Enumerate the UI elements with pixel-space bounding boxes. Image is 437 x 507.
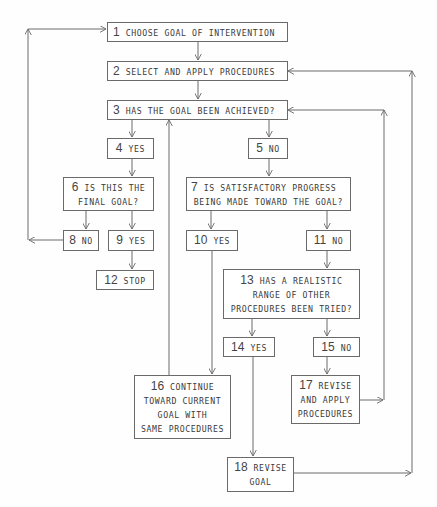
node-16-continue: 16CONTINUE TOWARD CURRENT GOAL WITH SAME…: [134, 375, 231, 439]
node-label: NO: [332, 236, 343, 246]
node-number: 8: [69, 233, 76, 247]
node-label: YES: [129, 144, 146, 154]
node-number: 5: [256, 141, 263, 155]
node-3-goal-achieved: 3HAS THE GOAL BEEN ACHIEVED?: [107, 100, 288, 120]
node-number: 6: [72, 180, 79, 194]
node-number: 16: [151, 379, 164, 393]
node-number: 10: [194, 233, 207, 247]
node-number: 3: [113, 103, 120, 117]
node-13-realistic-range: 13HAS A REALISTIC RANGE OF OTHER PROCEDU…: [223, 269, 360, 319]
node-label: YES: [250, 343, 267, 353]
node-number: 4: [116, 141, 123, 155]
node-number: 1: [113, 25, 120, 39]
node-label: HAS THE GOAL BEEN ACHIEVED?: [126, 106, 275, 116]
node-label: SELECT AND APPLY PROCEDURES: [126, 67, 275, 77]
node-label: IS THIS THE: [84, 183, 145, 193]
node-15-no: 15NO: [313, 337, 360, 357]
node-label: IS SATISFACTORY PROGRESS: [204, 183, 337, 193]
node-label: FINAL GOAL?: [78, 195, 139, 209]
node-label: HAS A REALISTIC: [260, 276, 343, 286]
node-label: GOAL WITH: [158, 408, 208, 422]
node-14-yes: 14YES: [223, 337, 275, 357]
node-label: REVISE: [254, 463, 287, 473]
node-8-no: 8NO: [63, 230, 99, 251]
node-number: 15: [321, 340, 334, 354]
node-4-yes: 4YES: [107, 138, 154, 159]
node-12-stop: 12STOP: [96, 270, 154, 290]
node-label: NO: [82, 236, 93, 246]
node-label: YES: [213, 236, 230, 246]
node-label: PROCEDURES BEEN TRIED?: [231, 302, 353, 316]
node-label: STOP: [124, 276, 146, 286]
node-label: TOWARD CURRENT: [144, 394, 221, 408]
node-number: 14: [231, 340, 244, 354]
node-label: RANGE OF OTHER: [253, 288, 330, 302]
node-number: 13: [240, 273, 253, 287]
node-number: 7: [191, 180, 198, 194]
node-10-yes: 10YES: [186, 230, 238, 251]
node-11-no: 11NO: [306, 230, 351, 251]
node-label: AND APPLY: [301, 393, 351, 407]
node-label: YES: [129, 236, 146, 246]
node-7-satisfactory-progress: 7IS SATISFACTORY PROGRESS BEING MADE TOW…: [186, 177, 351, 211]
node-label: REVISE: [319, 381, 352, 391]
node-label: CHOOSE GOAL OF INTERVENTION: [126, 28, 275, 38]
node-number: 17: [299, 378, 312, 392]
node-17-revise-apply: 17REVISE AND APPLY PROCEDURES: [291, 375, 360, 424]
node-number: 11: [314, 233, 326, 247]
node-1-choose-goal: 1CHOOSE GOAL OF INTERVENTION: [107, 22, 288, 42]
node-18-revise-goal: 18REVISE GOAL: [227, 457, 294, 492]
node-label: GOAL: [249, 475, 271, 489]
node-9-yes: 9YES: [108, 230, 154, 251]
node-label: NO: [341, 343, 352, 353]
node-label: PROCEDURES: [298, 407, 353, 421]
node-label: SAME PROCEDURES: [141, 422, 224, 436]
node-number: 18: [234, 460, 247, 474]
node-label: BEING MADE TOWARD THE GOAL?: [194, 195, 343, 209]
node-number: 9: [116, 233, 123, 247]
node-number: 2: [113, 64, 120, 78]
node-5-no: 5NO: [248, 138, 288, 159]
flowchart-canvas: 1CHOOSE GOAL OF INTERVENTION 2SELECT AND…: [0, 0, 437, 507]
node-label: CONTINUE: [170, 382, 214, 392]
node-label: NO: [269, 144, 280, 154]
node-number: 12: [104, 273, 117, 287]
node-2-select-apply: 2SELECT AND APPLY PROCEDURES: [107, 61, 288, 81]
node-6-final-goal: 6IS THIS THE FINAL GOAL?: [63, 177, 154, 211]
